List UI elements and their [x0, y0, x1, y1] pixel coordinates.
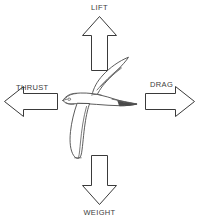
force-label-weight: WEIGHT — [0, 209, 199, 217]
four-forces-of-flight-diagram: LIFT THRUST DRAG WEIGHT — [0, 0, 199, 222]
block-arrow-up-icon — [83, 17, 117, 71]
block-arrow-down-icon — [83, 156, 117, 205]
bird-eye-icon — [68, 98, 71, 100]
force-label-drag: DRAG — [150, 81, 173, 89]
force-label-lift: LIFT — [0, 4, 199, 12]
diagram-canvas — [0, 0, 199, 222]
swift-bird-illustration — [63, 57, 137, 158]
force-label-thrust: THRUST — [16, 84, 49, 92]
block-arrow-right-icon — [146, 87, 195, 117]
